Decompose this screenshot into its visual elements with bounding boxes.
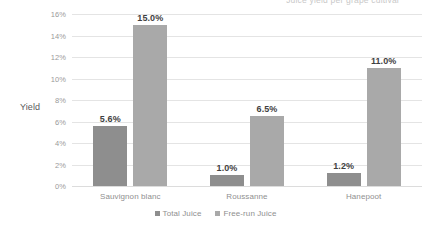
y-axis-tick-label: 2%	[55, 160, 66, 169]
bar-chart: Juice yield per grape cultivar Yield 0%2…	[0, 0, 431, 236]
bar-group: 5.6%15.0%	[72, 14, 189, 186]
y-axis-title: Yield	[8, 102, 52, 112]
legend-item[interactable]: Free-run Juice	[215, 209, 276, 218]
bar-value-label: 1.0%	[217, 163, 238, 173]
bar-value-label: 15.0%	[137, 13, 163, 23]
bar-free-run-juice[interactable]: 6.5%	[250, 116, 284, 186]
bar-total-juice[interactable]: 5.6%	[93, 126, 127, 186]
y-axis-tick-label: 14%	[51, 31, 66, 40]
bar-free-run-juice[interactable]: 15.0%	[133, 25, 167, 186]
legend-item[interactable]: Total Juice	[155, 209, 202, 218]
x-axis-category-label: Sauvignon blanc	[72, 192, 189, 201]
plot-area: 0%2%4%6%8%10%12%14%16% 5.6%15.0%1.0%6.5%…	[72, 14, 422, 186]
chart-title-clipped: Juice yield per grape cultivar	[255, 0, 431, 6]
y-axis-tick-label: 10%	[51, 74, 66, 83]
y-axis-tick-label: 0%	[55, 182, 66, 191]
bar-value-label: 5.6%	[100, 114, 121, 124]
bar-total-juice[interactable]: 1.2%	[327, 173, 361, 186]
bar-group: 1.2%11.0%	[305, 14, 422, 186]
bar-group: 1.0%6.5%	[189, 14, 306, 186]
bar-value-label: 1.2%	[333, 161, 354, 171]
legend-swatch-icon	[155, 211, 160, 216]
y-axis-tick-label: 6%	[55, 117, 66, 126]
bars-layer: 5.6%15.0%1.0%6.5%1.2%11.0%	[72, 14, 422, 186]
x-axis-category-label: Hanepoot	[305, 192, 422, 201]
y-axis-tick-label: 8%	[55, 96, 66, 105]
y-axis-tick-label: 16%	[51, 10, 66, 19]
bar-free-run-juice[interactable]: 11.0%	[367, 68, 401, 186]
bar-total-juice[interactable]: 1.0%	[210, 175, 244, 186]
x-axis-category-label: Roussanne	[189, 192, 306, 201]
x-axis-labels: Sauvignon blancRoussanneHanepoot	[72, 192, 422, 206]
chart-legend: Total JuiceFree-run Juice	[0, 209, 431, 218]
bar-value-label: 6.5%	[257, 104, 278, 114]
legend-swatch-icon	[215, 211, 220, 216]
y-axis-tick-label: 12%	[51, 53, 66, 62]
gridline: 0%	[72, 186, 422, 187]
legend-label: Total Juice	[163, 209, 202, 218]
legend-label: Free-run Juice	[223, 209, 276, 218]
bar-value-label: 11.0%	[371, 56, 397, 66]
y-axis-tick-label: 4%	[55, 139, 66, 148]
